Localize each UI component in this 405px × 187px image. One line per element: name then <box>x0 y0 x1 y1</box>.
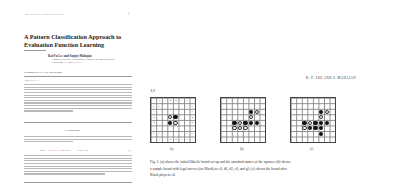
black-disc <box>168 121 172 125</box>
left-page: Artificial Intelligence 1 A Pattern Clas… <box>0 0 140 187</box>
abstract-body <box>24 84 132 113</box>
black-disc <box>249 121 253 125</box>
white-disc <box>302 126 306 130</box>
square-label: C <box>190 131 196 137</box>
black-disc <box>313 126 317 130</box>
white-disc <box>319 115 323 119</box>
x-square-label: X <box>184 104 190 110</box>
section-heading: 1. Introduction <box>64 129 79 132</box>
black-disc <box>319 132 323 136</box>
page-number: 12 <box>150 88 155 93</box>
white-disc <box>325 110 329 114</box>
white-disc <box>173 121 177 125</box>
intro-paragraph <box>24 136 132 144</box>
black-disc <box>173 115 177 119</box>
abstract-heading: ABSTRACT <box>24 79 39 82</box>
journal-header: Artificial Intelligence <box>24 13 64 16</box>
black-disc <box>255 121 259 125</box>
board-b-label: (b) <box>240 147 244 151</box>
othello-board-a: C A B B A C C A B B A C C A B B A C C A … <box>150 97 196 143</box>
caption-line: Black plays to e6. <box>150 172 405 179</box>
white-disc <box>238 121 242 125</box>
black-disc <box>308 126 312 130</box>
black-disc <box>232 121 236 125</box>
white-disc <box>255 110 259 114</box>
white-disc <box>249 115 253 119</box>
affiliation-line: Pittsburgh, PA 15213, U.S.A. <box>52 61 115 64</box>
board-c-label: (c) <box>310 147 313 151</box>
black-disc <box>313 121 317 125</box>
white-disc <box>243 126 247 130</box>
white-disc <box>308 121 312 125</box>
affiliation: Computer Science Department, Carnegie Me… <box>52 58 115 65</box>
white-disc <box>232 126 236 130</box>
right-page: 12 K.-F. LEE AND S. MAHAJAN C A B B A C … <box>140 0 405 187</box>
x-square-label: X <box>157 104 163 110</box>
black-disc <box>302 121 306 125</box>
black-disc <box>319 121 323 125</box>
body-paragraph <box>24 155 132 176</box>
x-square-label: X <box>157 131 163 137</box>
equation-number: (1) <box>128 149 131 152</box>
footnote <box>24 182 132 185</box>
x-square-label: X <box>184 131 190 137</box>
recommended-by: Recommended by Paul Rosenbloom <box>24 71 62 74</box>
black-disc <box>249 110 253 114</box>
figure-caption: Fig. 3. (a) shows the initial Othello bo… <box>150 159 405 179</box>
white-disc <box>238 126 242 130</box>
square-label: C <box>184 137 190 143</box>
white-disc <box>168 115 172 119</box>
paper-title: A Pattern Classification Approach to Eva… <box>24 33 134 48</box>
abstract-end-rule <box>24 122 132 123</box>
othello-board-c <box>290 97 336 143</box>
black-disc <box>243 121 247 125</box>
othello-board-b <box>220 97 266 143</box>
equation: Eval = C1 × F1 + C2 × F2 + ··· + Cn × Fn <box>40 149 87 152</box>
board-a-label: (a) <box>170 147 173 151</box>
black-disc <box>325 121 329 125</box>
running-head: K.-F. LEE AND S. MAHAJAN <box>306 76 356 80</box>
title-rule <box>24 50 46 51</box>
black-disc <box>319 126 323 130</box>
page-number: 1 <box>128 12 130 16</box>
black-disc <box>319 110 323 114</box>
abstract-rule <box>24 76 132 77</box>
